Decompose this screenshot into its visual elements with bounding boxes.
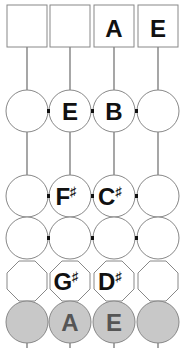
joint-dot	[91, 236, 94, 240]
joint-dot	[47, 236, 50, 240]
joint-dot	[135, 109, 138, 113]
finger-position-r1-c4	[137, 90, 179, 132]
finger-position-r2-c4	[137, 175, 179, 217]
open-string-label-4: E	[150, 15, 166, 42]
finger-position-r5-c4	[137, 301, 179, 343]
finger-position-r3-c3	[93, 217, 135, 259]
joint-dot	[47, 109, 50, 113]
finger-position-r4-c1	[7, 261, 47, 301]
note-r1-c2: E	[62, 98, 78, 125]
note-r1-c3: B	[105, 98, 122, 125]
joint-dot	[47, 194, 50, 198]
open-string-box-1	[7, 5, 47, 47]
note-r5-c3: E	[106, 309, 122, 336]
finger-position-r3-c2	[49, 217, 91, 259]
open-string-label-3: A	[105, 15, 122, 42]
finger-row-5	[6, 301, 179, 343]
note-r5-c2: A	[61, 309, 78, 336]
finger-position-r3-c1	[6, 217, 48, 259]
finger-position-r1-c1	[6, 90, 48, 132]
finger-position-r3-c4	[137, 217, 179, 259]
joint-dot	[135, 236, 138, 240]
joint-dot	[135, 194, 138, 198]
finger-position-r4-c4	[138, 261, 178, 301]
finger-position-r5-c1	[6, 301, 48, 343]
joint-dot	[91, 109, 94, 113]
open-string-box-2	[50, 5, 90, 47]
finger-row-4	[7, 261, 178, 301]
fingerboard-diagram: A E E B F♯ C♯ G♯ D♯ A E	[0, 0, 187, 356]
finger-position-r2-c1	[6, 175, 48, 217]
joint-dot	[91, 194, 94, 198]
